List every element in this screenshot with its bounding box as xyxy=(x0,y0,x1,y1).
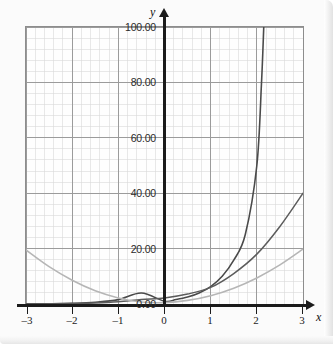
x-tick-mark-3 xyxy=(302,307,303,314)
curve-steep-exponential xyxy=(26,27,264,304)
y-tick-label-40: 40.00 xyxy=(108,187,156,199)
x-tick-mark-0 xyxy=(164,307,165,314)
y-tick-label-20: 20.00 xyxy=(108,243,156,255)
x-axis-arrow-icon xyxy=(306,300,315,310)
x-tick-label-1: 1 xyxy=(199,314,221,326)
y-axis-arrow-icon xyxy=(159,8,169,17)
x-axis-label: x xyxy=(316,310,321,325)
y-tick-label-60: 60.00 xyxy=(108,132,156,144)
x-tick-label-0: 0 xyxy=(153,314,175,326)
y-axis-line xyxy=(163,16,166,307)
y-tick-label-80: 80.00 xyxy=(108,76,156,88)
x-tick-mark--3 xyxy=(27,307,28,314)
y-axis-label: y xyxy=(150,5,155,20)
x-tick-mark--1 xyxy=(118,307,119,314)
page-edge-shadow-right xyxy=(324,0,333,344)
x-tick-label-3: 3 xyxy=(291,314,313,326)
y-tick-label-0: 0.00 xyxy=(108,298,156,310)
x-tick-mark--2 xyxy=(72,307,73,314)
graph-figure: y x 100.00 80.00 60.00 40.00 20.00 0.00 … xyxy=(0,0,333,344)
x-tick-mark-1 xyxy=(210,307,211,314)
x-tick-label-2: 2 xyxy=(245,314,267,326)
x-tick-label--2: –2 xyxy=(61,314,83,326)
x-tick-label--1: –1 xyxy=(107,314,129,326)
y-tick-label-100: 100.00 xyxy=(108,21,156,33)
x-tick-label--3: –3 xyxy=(16,314,38,326)
page-edge-shadow-bottom xyxy=(0,336,333,344)
x-tick-mark-2 xyxy=(256,307,257,314)
